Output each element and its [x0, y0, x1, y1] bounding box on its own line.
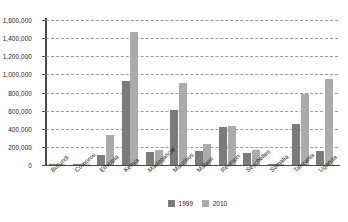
legend-swatch-icon [168, 200, 175, 207]
bar-group [216, 20, 240, 165]
chart-legend: 19992010 [168, 200, 227, 207]
bar-tanzania-1999 [292, 124, 300, 165]
bar-mauritius-1999 [170, 110, 178, 165]
y-axis-tick-label: 600,000 [0, 107, 32, 114]
bar-group [192, 20, 216, 165]
bar-group [314, 20, 338, 165]
bar-kenya-2010 [130, 32, 138, 165]
plot-area: 0200,000400,000600,000800,0001,000,0001,… [46, 20, 338, 165]
y-axis-tick-label: 1,000,000 [0, 71, 32, 78]
bar-mauritius-2010 [179, 83, 187, 165]
bar-uganda-2010 [325, 79, 333, 165]
y-axis-tick-label: 1,200,000 [0, 53, 32, 60]
bar-group [95, 20, 119, 165]
y-axis-tick-label: 400,000 [0, 125, 32, 132]
y-axis-tick-label: 800,000 [0, 89, 32, 96]
bar-group [143, 20, 167, 165]
y-axis-tick-label: 200,000 [0, 143, 32, 150]
bar-group [289, 20, 313, 165]
bar-group [265, 20, 289, 165]
y-axis-tick-label: 1,600,000 [0, 17, 32, 24]
bar-reunion-1999 [219, 127, 227, 165]
bar-group [241, 20, 265, 165]
legend-label: 2010 [213, 200, 228, 207]
y-axis-tick-label: 1,400,000 [0, 35, 32, 42]
legend-item-2010[interactable]: 2010 [202, 200, 227, 207]
legend-swatch-icon [202, 200, 209, 207]
bar-group [119, 20, 143, 165]
y-axis-tick [42, 165, 46, 166]
bar-group [46, 20, 70, 165]
bar-chart: 0200,000400,000600,000800,0001,000,0001,… [0, 0, 348, 222]
bar-group [168, 20, 192, 165]
y-axis-tick-label: 0 [0, 162, 32, 169]
bar-group [70, 20, 94, 165]
legend-label: 1999 [179, 200, 194, 207]
legend-item-1999[interactable]: 1999 [168, 200, 193, 207]
bar-kenya-1999 [122, 81, 130, 165]
